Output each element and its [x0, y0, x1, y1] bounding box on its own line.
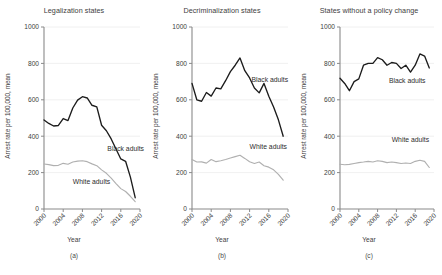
svg-text:Black adults: Black adults: [252, 76, 289, 83]
svg-text:2000: 2000: [32, 212, 48, 228]
svg-text:600: 600: [28, 96, 39, 103]
svg-text:2016: 2016: [109, 212, 125, 228]
panel-no-policy-change: States without a policy change Arrest ra…: [296, 0, 442, 275]
svg-text:2016: 2016: [403, 212, 419, 228]
panel-a-plot: 0200400600800100020002004200820122016202…: [0, 0, 148, 275]
svg-text:2020: 2020: [422, 212, 438, 228]
svg-text:2012: 2012: [384, 212, 400, 228]
svg-text:200: 200: [28, 169, 39, 176]
svg-text:White adults: White adults: [250, 143, 288, 150]
svg-text:2008: 2008: [70, 212, 86, 228]
svg-text:600: 600: [324, 96, 335, 103]
svg-text:Black adults: Black adults: [389, 77, 426, 84]
svg-text:400: 400: [176, 133, 187, 140]
panel-b-xlabel: Year: [148, 236, 296, 243]
svg-text:White adults: White adults: [73, 178, 111, 185]
panel-b-plot: 0200400600800100020002004200820122016202…: [148, 0, 296, 275]
panel-c-xlabel: Year: [296, 236, 442, 243]
svg-text:2020: 2020: [128, 212, 144, 228]
panel-a-letter: (a): [0, 252, 148, 259]
svg-text:Black adults: Black adults: [107, 145, 144, 152]
svg-text:1000: 1000: [24, 23, 39, 30]
svg-text:2012: 2012: [89, 212, 105, 228]
svg-text:2008: 2008: [365, 212, 381, 228]
svg-text:2016: 2016: [257, 212, 273, 228]
svg-text:0: 0: [183, 205, 187, 212]
svg-text:600: 600: [176, 96, 187, 103]
panel-c-letter: (c): [296, 252, 442, 259]
svg-text:1000: 1000: [320, 23, 335, 30]
svg-text:800: 800: [324, 60, 335, 67]
svg-text:2020: 2020: [276, 212, 292, 228]
svg-text:2004: 2004: [347, 212, 363, 228]
svg-text:1000: 1000: [172, 23, 187, 30]
svg-text:400: 400: [324, 133, 335, 140]
panel-legalization-states: Legalization states Arrest rate per 100,…: [0, 0, 148, 275]
panel-decriminalization-states: Decriminalization states Arrest rate per…: [148, 0, 296, 275]
svg-text:200: 200: [176, 169, 187, 176]
panel-c-plot: 0200400600800100020002004200820122016202…: [296, 0, 442, 275]
svg-text:2000: 2000: [180, 212, 196, 228]
svg-text:2008: 2008: [218, 212, 234, 228]
svg-text:2004: 2004: [199, 212, 215, 228]
svg-text:800: 800: [176, 60, 187, 67]
svg-text:800: 800: [28, 60, 39, 67]
svg-text:White adults: White adults: [392, 136, 430, 143]
figure-root: Legalization states Arrest rate per 100,…: [0, 0, 442, 275]
svg-text:400: 400: [28, 133, 39, 140]
panel-a-xlabel: Year: [0, 236, 148, 243]
svg-text:0: 0: [331, 205, 335, 212]
panel-b-letter: (b): [148, 252, 296, 259]
svg-text:2012: 2012: [237, 212, 253, 228]
svg-text:200: 200: [324, 169, 335, 176]
svg-text:2000: 2000: [328, 212, 344, 228]
svg-text:2004: 2004: [51, 212, 67, 228]
svg-text:0: 0: [35, 205, 39, 212]
